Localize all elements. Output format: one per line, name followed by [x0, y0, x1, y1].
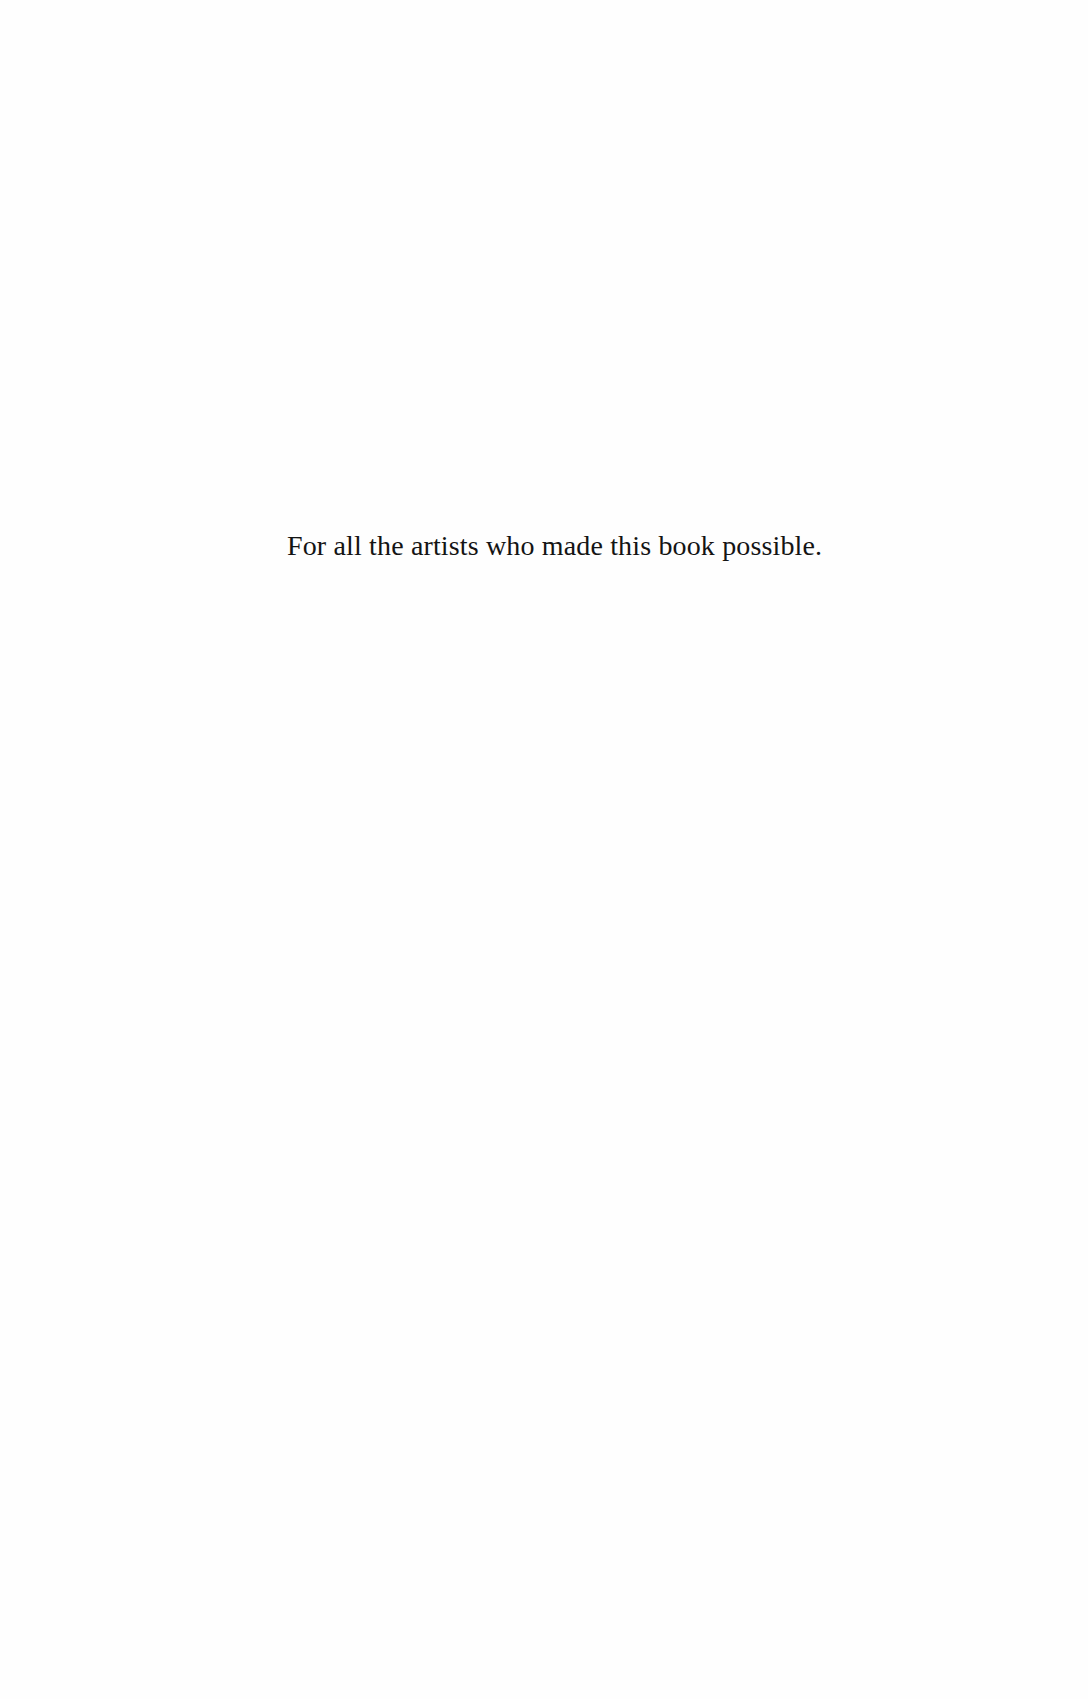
- book-page: For all the artists who made this book p…: [0, 0, 1088, 1699]
- dedication-text: For all the artists who made this book p…: [287, 528, 847, 564]
